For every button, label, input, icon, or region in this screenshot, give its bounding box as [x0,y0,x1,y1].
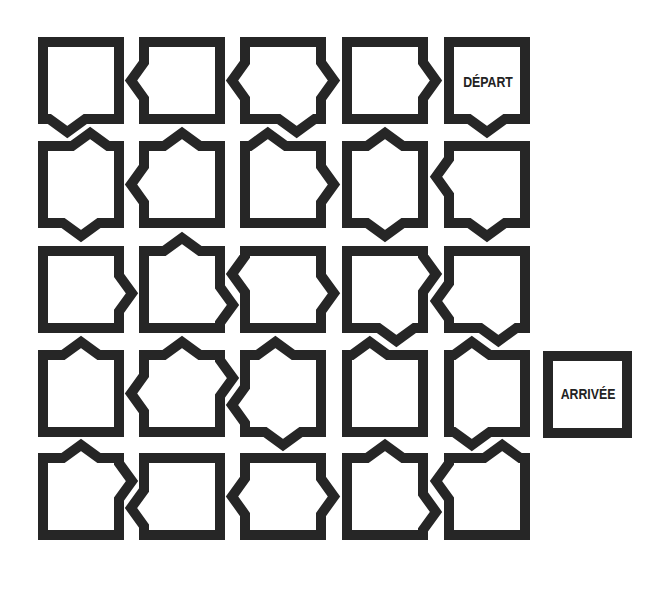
maze-cell[interactable] [43,445,132,535]
cell-outline [43,342,119,432]
maze-cell[interactable] [43,251,132,328]
maze-cell[interactable] [449,342,525,445]
maze-cell[interactable] [347,133,423,236]
maze-cell[interactable] [43,42,119,132]
cell-outline [347,445,436,535]
maze-cell[interactable] [43,342,119,432]
maze-cell[interactable] [232,42,334,132]
maze-cell[interactable] [131,42,220,119]
maze-cell[interactable] [232,251,334,328]
cell-outline [144,238,233,328]
cell-outline [131,133,220,223]
start-label: DÉPART [458,73,517,90]
maze-cell[interactable] [232,458,334,535]
cell-outline [43,445,132,535]
maze-cell[interactable] [144,238,233,328]
maze-cell[interactable] [131,342,233,432]
cell-outline [347,342,423,432]
cell-outline [347,251,436,341]
cell-outline [436,251,525,341]
maze-cell[interactable] [347,42,436,119]
maze-cell[interactable] [131,458,220,535]
maze-cell[interactable] [232,342,321,445]
maze-grid [0,0,664,589]
maze-cell[interactable] [436,146,525,236]
maze-cell[interactable] [436,445,525,535]
maze-cell[interactable] [43,133,119,236]
cell-outline [43,133,119,236]
maze-cell[interactable] [347,251,436,341]
end-label: ARRIVÉE [554,385,621,402]
cell-outline [245,133,334,223]
cell-outline [232,342,321,445]
maze-cell[interactable] [436,251,525,341]
cell-outline [232,251,334,328]
cell-outline [347,42,436,119]
maze-cell[interactable] [347,342,423,432]
cell-outline [436,146,525,236]
cell-outline [232,42,334,132]
cell-outline [131,458,220,535]
cell-outline [43,251,132,328]
maze-cell[interactable] [131,133,220,223]
cell-outline [436,445,525,535]
cell-outline [131,342,233,432]
cell-outline [131,42,220,119]
cell-outline [449,342,525,445]
cell-outline [347,133,423,236]
maze-cell[interactable] [245,133,334,223]
cell-outline [232,458,334,535]
maze-cell[interactable] [347,445,436,535]
cell-outline [43,42,119,132]
maze-board: DÉPART ARRIVÉE [0,0,664,589]
